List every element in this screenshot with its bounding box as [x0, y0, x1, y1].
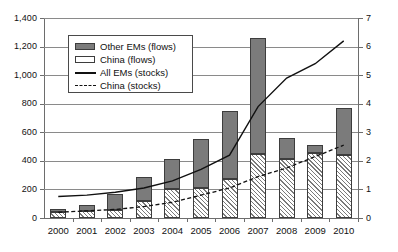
y-axis-left-tick-label: 1,400 — [0, 14, 37, 23]
x-axis-tickmark — [101, 218, 102, 222]
y-axis-left-tickmark — [40, 47, 44, 48]
x-tick-label-2003: 2003 — [130, 226, 159, 236]
x-tick-label-2009: 2009 — [301, 226, 330, 236]
y-axis-left-tickmark — [40, 18, 44, 19]
y-axis-right-tick-label: 6 — [366, 42, 371, 51]
x-tick-label-2008: 2008 — [272, 226, 301, 236]
x-axis-tickmark — [329, 218, 330, 222]
legend-item-china-stocks: China (stocks) — [75, 79, 187, 92]
x-axis-tickmark — [187, 218, 188, 222]
y-axis-left-tick-label: 600 — [0, 128, 37, 137]
legend-label-china-stocks: China (stocks) — [100, 81, 161, 91]
y-axis-right-tick-label: 1 — [366, 185, 371, 194]
x-tick-label-2002: 2002 — [101, 226, 130, 236]
chart-figure: 2000200120022003200420052006200720082009… — [0, 0, 398, 252]
x-tick-label-2006: 2006 — [215, 226, 244, 236]
y-axis-right-tickmark — [359, 218, 363, 219]
y-axis-left-tickmark — [40, 161, 44, 162]
y-axis-left-tickmark — [40, 75, 44, 76]
y-axis-left-tickmark — [40, 132, 44, 133]
y-axis-right-tick-label: 7 — [366, 14, 371, 23]
x-axis-tickmark — [301, 218, 302, 222]
legend-item-all-ems-stocks: All EMs (stocks) — [75, 66, 187, 79]
x-axis-tickmark — [244, 218, 245, 222]
x-axis — [44, 218, 359, 219]
y-axis-left-tickmark — [40, 104, 44, 105]
line-china-stocks — [58, 145, 343, 212]
y-axis-right-tick-label: 5 — [366, 71, 371, 80]
y-axis-left-tick-label: 1,000 — [0, 71, 37, 80]
y-axis-left-tick-label: 0 — [0, 214, 37, 223]
legend-swatch-china-icon — [75, 54, 97, 65]
y-axis-left-tick-label: 800 — [0, 99, 37, 108]
y-axis-right-tick-label: 4 — [366, 99, 371, 108]
y-axis-right-tickmark — [359, 132, 363, 133]
x-tick-label-2001: 2001 — [73, 226, 102, 236]
y-axis-right-tickmark — [359, 75, 363, 76]
x-tick-label-2007: 2007 — [244, 226, 273, 236]
y-axis-right-tick-label: 2 — [366, 156, 371, 165]
legend-line-solid-icon — [75, 67, 97, 78]
legend-item-china-flows: China (flows) — [75, 53, 187, 66]
y-axis-right-tick-label: 0 — [366, 214, 371, 223]
y-axis-right-tickmark — [359, 47, 363, 48]
y-axis-left-tick-label: 200 — [0, 185, 37, 194]
y-axis-right-tickmark — [359, 18, 363, 19]
x-tick-label-2010: 2010 — [329, 226, 358, 236]
x-axis-tickmark — [272, 218, 273, 222]
x-axis-tickmark — [215, 218, 216, 222]
y-axis-right-tickmark — [359, 104, 363, 105]
legend-label-china-flows: China (flows) — [100, 55, 155, 65]
x-axis-tickmark — [358, 218, 359, 222]
legend-line-dashed-icon — [75, 80, 97, 91]
y-axis-right-tickmark — [359, 189, 363, 190]
x-axis-tickmark — [158, 218, 159, 222]
y-axis-left-tickmark — [40, 218, 44, 219]
legend-label-other-ems-flows: Other EMs (flows) — [100, 42, 176, 52]
legend-label-all-ems-stocks: All EMs (stocks) — [100, 68, 168, 78]
x-tick-label-2005: 2005 — [187, 226, 216, 236]
x-axis-tickmark — [73, 218, 74, 222]
y-axis-right-tick-label: 3 — [366, 128, 371, 137]
figure-caption — [0, 244, 398, 252]
x-tick-label-2004: 2004 — [158, 226, 187, 236]
chart-legend: Other EMs (flows) China (flows) All EMs … — [68, 35, 193, 93]
y-axis-left-tick-label: 1,200 — [0, 42, 37, 51]
x-axis-tickmark — [130, 218, 131, 222]
legend-swatch-other-ems-icon — [75, 41, 97, 52]
y-axis-right-tickmark — [359, 161, 363, 162]
y-axis-left-tick-label: 400 — [0, 156, 37, 165]
y-axis-left-tickmark — [40, 189, 44, 190]
x-tick-label-2000: 2000 — [44, 226, 73, 236]
legend-item-other-ems-flows: Other EMs (flows) — [75, 40, 187, 53]
